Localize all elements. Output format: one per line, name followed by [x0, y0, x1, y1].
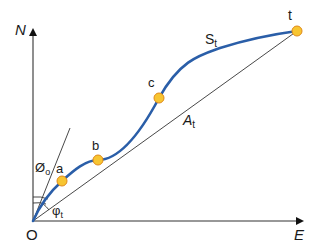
point-c-label: c — [148, 75, 155, 90]
phi0-label: Øo — [35, 160, 50, 177]
origin-label: O — [26, 226, 38, 243]
chord-label: At — [182, 112, 195, 130]
point-b-label: b — [92, 138, 99, 153]
chord-line — [33, 31, 297, 221]
point-t — [292, 26, 302, 36]
point-c — [154, 93, 164, 103]
point-a-label: a — [56, 161, 64, 176]
point-t-label: t — [288, 7, 292, 23]
point-b — [93, 155, 103, 165]
curve-label: St — [205, 31, 217, 49]
point-a — [57, 176, 67, 186]
y-axis-label: N — [15, 21, 26, 38]
path-diagram: N E O a b c t St At Øo φt — [0, 0, 318, 251]
phit-label: φt — [52, 203, 63, 220]
x-axis-label: E — [294, 226, 305, 243]
